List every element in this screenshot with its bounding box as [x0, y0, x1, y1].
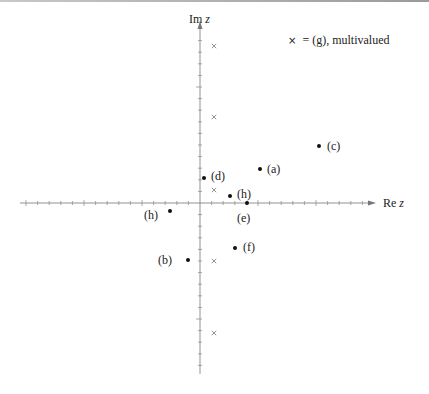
- dot-icon: [258, 167, 262, 171]
- dot-icon: [317, 144, 321, 148]
- complex-plane-diagram: Re z Im z × = (g), multivalued (a)(b)(c)…: [0, 0, 429, 394]
- dot-icon: [202, 176, 206, 180]
- point-h1: (h): [228, 187, 251, 201]
- point-c: (c): [317, 139, 340, 153]
- legend: × = (g), multivalued: [288, 33, 389, 47]
- dot-icon: [168, 209, 172, 213]
- point-label: (d): [211, 169, 225, 183]
- point-a: (a): [258, 162, 280, 176]
- point-h2: (h): [144, 208, 172, 222]
- point-label: (a): [267, 162, 280, 176]
- point-d: (d): [202, 169, 225, 183]
- imaginary-axis-label: Im z: [189, 12, 210, 26]
- dot-icon: [245, 201, 249, 205]
- point-label: (h): [144, 208, 158, 222]
- point-e: (e): [237, 201, 250, 225]
- point-f: (f): [233, 240, 255, 254]
- cross-icon: [212, 259, 216, 263]
- dot-icon: [233, 246, 237, 250]
- point-label: (c): [327, 139, 340, 153]
- multivalued-markers: [212, 44, 216, 335]
- cross-icon: [212, 188, 216, 192]
- dot-icon: [228, 194, 232, 198]
- cross-icon: ×: [288, 35, 296, 46]
- axes: [20, 21, 376, 374]
- cross-icon: [212, 115, 216, 119]
- point-b: (b): [158, 253, 190, 267]
- real-axis-label: Re z: [383, 196, 404, 210]
- dot-icon: [186, 258, 190, 262]
- point-label: (e): [237, 211, 250, 225]
- cross-icon: [212, 44, 216, 48]
- point-label: (b): [158, 253, 172, 267]
- point-label: (f): [243, 240, 255, 254]
- real-axis-arrow-icon: [368, 201, 376, 206]
- cross-icon: [212, 331, 216, 335]
- point-label: (h): [237, 187, 251, 201]
